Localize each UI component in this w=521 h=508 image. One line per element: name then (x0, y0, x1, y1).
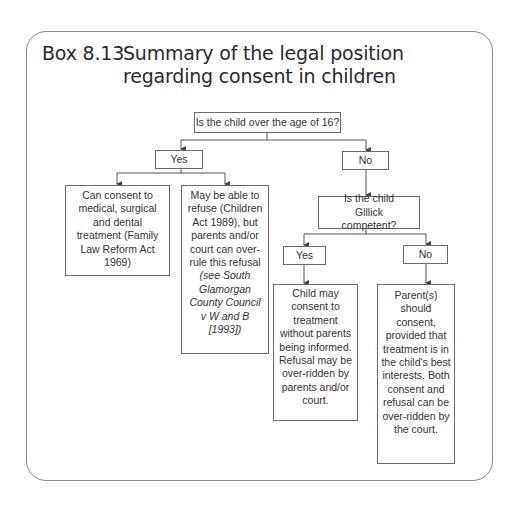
outcome-text: May be able to refuse (Children Act 1989… (186, 189, 264, 269)
yes-label: Yes (296, 249, 313, 262)
outcome-can-consent: Can consent to medical, surgical and den… (65, 185, 170, 276)
outcome-text: Parent(s) should consent, provided that … (381, 289, 451, 436)
case-citation: (see South Glamorgan County Council v W … (186, 269, 264, 336)
yes-label: Yes (170, 153, 187, 166)
answer-yes-over-16: Yes (155, 150, 203, 169)
answer-no-gillick: No (403, 245, 448, 264)
answer-yes-gillick: Yes (283, 246, 326, 265)
question-over-16: Is the child over the age of 16? (194, 112, 341, 133)
answer-no-over-16: No (342, 151, 389, 170)
outcome-parents-should-consent: Parent(s) should consent, provided that … (377, 284, 455, 464)
outcome-may-refuse: May be able to refuse (Children Act 1989… (181, 185, 269, 354)
question-text: Is the child over the age of 16? (196, 117, 340, 128)
outcome-text: Child may consent to treatment without p… (278, 287, 353, 408)
no-label: No (419, 248, 432, 261)
no-label: No (359, 154, 372, 167)
question-text: Is the child Gillick competent? (319, 192, 419, 232)
outcome-text: Can consent to medical, surgical and den… (70, 189, 165, 269)
question-gillick: Is the child Gillick competent? (318, 196, 420, 229)
outcome-child-may-consent: Child may consent to treatment without p… (273, 284, 358, 421)
